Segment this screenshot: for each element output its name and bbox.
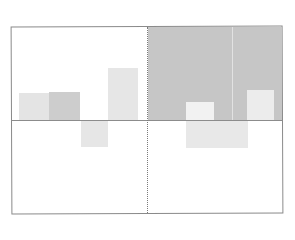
bar-6 (247, 90, 274, 120)
bar-3-negative (81, 120, 108, 147)
bar-4 (108, 68, 138, 120)
center-dotted-divider (147, 27, 148, 213)
bar-1 (19, 93, 49, 120)
bar-5-lower-region (186, 120, 248, 148)
bar-2 (49, 92, 80, 120)
bar-5 (186, 102, 214, 120)
